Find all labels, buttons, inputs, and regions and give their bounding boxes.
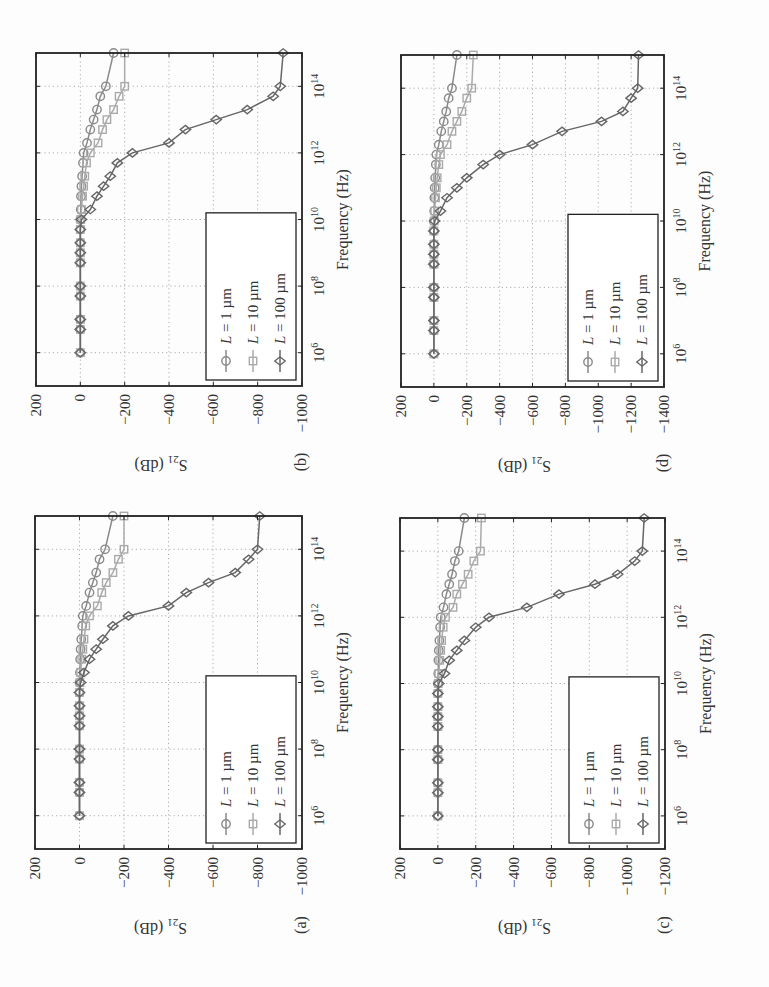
x-axis-label: Frequency (Hz)	[334, 632, 352, 733]
y-axis-label: S21 (dB)	[134, 917, 187, 937]
legend-entry: L = 100 µm	[272, 736, 288, 808]
y-tick-label: 0	[430, 857, 446, 865]
y-tick-label: −400	[506, 857, 522, 888]
legend-entry: L = 10 µm	[607, 281, 623, 346]
y-tick-label: −200	[468, 857, 484, 888]
x-tick-label: 1012	[671, 142, 689, 167]
chart-panel-a: 2000−200−400−600−800−1000106108101010121…	[0, 463, 385, 987]
y-tick-label: −1000	[294, 394, 310, 432]
x-tick-label: 106	[672, 806, 690, 826]
legend-entry: L = 10 µm	[245, 743, 261, 808]
y-tick-label: −600	[543, 857, 559, 888]
y-tick-label: −600	[525, 395, 541, 426]
y-tick-label: −800	[557, 395, 573, 426]
figure-page: 2000−200−400−600−800−1000106108101010121…	[0, 0, 769, 987]
legend: L = 1 µmL = 10 µmL = 100 µm	[569, 677, 659, 843]
legend-entry: L = 1 µm	[218, 288, 234, 345]
legend-entry: L = 1 µm	[580, 289, 596, 346]
x-tick-label: 108	[671, 277, 689, 297]
legend: L = 1 µmL = 10 µmL = 100 µm	[568, 214, 658, 381]
y-tick-label: 0	[72, 394, 88, 402]
x-tick-label: 1010	[309, 207, 327, 232]
x-axis-label: Frequency (Hz)	[697, 633, 715, 734]
y-tick-label: 200	[392, 857, 408, 880]
x-tick-label: 1012	[309, 603, 327, 628]
chart-panel-b: 2000−200−400−600−800−1000106108101010121…	[0, 0, 385, 480]
x-tick-label: 1012	[309, 140, 327, 165]
y-tick-label: −1200	[623, 395, 639, 433]
x-tick-label: 1014	[672, 539, 690, 564]
y-tick-label: −400	[492, 395, 508, 426]
y-tick-label: 200	[27, 857, 43, 880]
x-tick-label: 106	[309, 343, 327, 363]
x-axis-label: Frequency (Hz)	[334, 169, 352, 270]
legend-entry: L = 1 µm	[218, 751, 234, 808]
legend: L = 1 µmL = 10 µmL = 100 µm	[206, 676, 296, 843]
legend-entry: L = 100 µm	[634, 274, 650, 346]
y-tick-label: −200	[116, 857, 132, 888]
legend-entry: L = 1 µm	[581, 751, 597, 808]
series-square	[430, 51, 477, 357]
legend-entry: L = 10 µm	[608, 743, 624, 808]
y-tick-label: −600	[205, 394, 221, 425]
y-tick-label: −600	[205, 857, 221, 888]
y-tick-label: −800	[250, 394, 266, 425]
y-tick-label: −1000	[294, 857, 310, 895]
x-tick-label: 108	[309, 739, 327, 759]
x-tick-label: 1010	[309, 670, 327, 695]
x-tick-label: 1010	[671, 209, 689, 234]
y-tick-label: 200	[28, 394, 44, 417]
x-axis-label: Frequency (Hz)	[696, 171, 714, 272]
series-square	[77, 49, 129, 356]
x-tick-label: 1014	[309, 537, 327, 562]
y-tick-label: 0	[72, 857, 88, 865]
series-square	[76, 512, 128, 819]
x-tick-label: 106	[671, 344, 689, 364]
y-tick-label: −800	[581, 857, 597, 888]
x-tick-label: 108	[672, 740, 690, 760]
y-tick-label: −200	[459, 395, 475, 426]
y-tick-label: −1400	[656, 395, 672, 433]
y-tick-label: −1200	[657, 857, 673, 895]
legend: L = 1 µmL = 10 µmL = 100 µm	[206, 213, 296, 380]
y-tick-label: −200	[117, 394, 133, 425]
x-tick-label: 1014	[671, 76, 689, 101]
y-tick-label: −400	[161, 394, 177, 425]
y-axis-label: S21 (dB)	[498, 917, 551, 937]
x-tick-label: 1014	[309, 74, 327, 99]
chart-panel-d: 2000−200−400−600−800−1000−1200−140010610…	[365, 0, 769, 480]
y-tick-label: −1000	[619, 857, 635, 895]
x-tick-label: 106	[309, 806, 327, 826]
y-tick-label: 200	[393, 395, 409, 418]
chart-panel-c: 2000−200−400−600−800−1000−12001061081010…	[365, 463, 769, 987]
panel-label: (c)	[655, 916, 673, 934]
x-tick-label: 1010	[672, 671, 690, 696]
panel-label: (a)	[292, 916, 310, 934]
y-tick-label: −800	[250, 857, 266, 888]
y-tick-label: −400	[161, 857, 177, 888]
x-tick-label: 108	[309, 276, 327, 296]
legend-entry: L = 100 µm	[635, 736, 651, 808]
y-tick-label: 0	[426, 395, 442, 403]
legend-entry: L = 10 µm	[245, 280, 261, 345]
x-tick-label: 1012	[672, 605, 690, 630]
y-tick-label: −1000	[590, 395, 606, 433]
legend-entry: L = 100 µm	[272, 273, 288, 345]
